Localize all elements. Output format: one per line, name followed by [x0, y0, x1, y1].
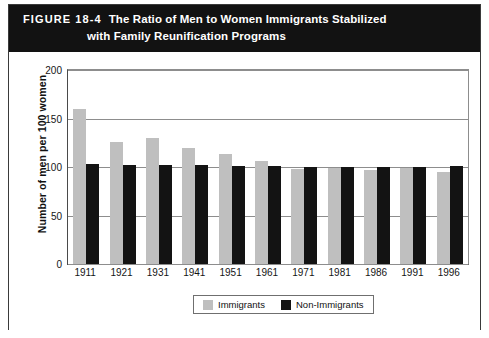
bar-nonimmigrants: [159, 165, 172, 264]
bar-group: [364, 70, 390, 264]
bar-immigrants: [437, 172, 450, 264]
legend-label-nonimmigrants: Non-Immigrants: [296, 299, 364, 310]
bar-group: [400, 70, 426, 264]
bar-nonimmigrants: [304, 167, 317, 264]
bar-group: [73, 70, 99, 264]
legend-swatch-immigrants-icon: [203, 300, 213, 310]
bar-nonimmigrants: [268, 166, 281, 264]
legend-swatch-nonimmigrants-icon: [281, 300, 291, 310]
bar-nonimmigrants: [195, 165, 208, 264]
legend-label-immigrants: Immigrants: [218, 299, 265, 310]
x-axis-tick-label: 1971: [286, 267, 320, 278]
bar-nonimmigrants: [377, 167, 390, 264]
bar-immigrants: [291, 169, 304, 264]
bar-immigrants: [400, 168, 413, 264]
bar-immigrants: [328, 168, 341, 264]
bar-group: [255, 70, 281, 264]
bar-immigrants: [73, 109, 86, 264]
x-axis-tick-label: 1986: [359, 267, 393, 278]
bar-nonimmigrants: [232, 166, 245, 264]
legend-item-immigrants: Immigrants: [203, 299, 265, 310]
bar-groups: [68, 70, 468, 264]
ytick-label-50: 50: [51, 210, 62, 221]
bar-group: [182, 70, 208, 264]
bar-immigrants: [219, 154, 232, 264]
bar-nonimmigrants: [341, 167, 354, 264]
legend-item-nonimmigrants: Non-Immigrants: [281, 299, 364, 310]
bar-immigrants: [110, 142, 123, 264]
bar-group: [437, 70, 463, 264]
chart-area: Number of men per 100 women 200 150 100 …: [9, 52, 480, 330]
bar-group: [110, 70, 136, 264]
bar-group: [219, 70, 245, 264]
bar-nonimmigrants: [413, 167, 426, 264]
ytick-label-150: 150: [45, 113, 62, 124]
x-axis-tick-label: 1931: [141, 267, 175, 278]
figure-title-line-1: FIGURE 18-4The Ratio of Men to Women Imm…: [23, 11, 466, 28]
figure-container: FIGURE 18-4The Ratio of Men to Women Imm…: [8, 4, 481, 330]
bar-immigrants: [364, 170, 377, 264]
bar-immigrants: [182, 148, 195, 264]
gridline-0: 0: [68, 264, 468, 265]
bar-nonimmigrants: [123, 165, 136, 264]
x-axis-tick-label: 1996: [432, 267, 466, 278]
x-axis-tick-label: 1911: [68, 267, 102, 278]
bar-group: [291, 70, 317, 264]
x-axis-tick-label: 1961: [250, 267, 284, 278]
bar-nonimmigrants: [86, 164, 99, 264]
x-axis-tick-labels: 1911192119311941195119611971198119861991…: [67, 267, 467, 278]
chart-legend: Immigrants Non-Immigrants: [193, 295, 374, 314]
ytick-label-0: 0: [56, 259, 62, 270]
ytick-label-200: 200: [45, 65, 62, 76]
ytick-label-100: 100: [45, 162, 62, 173]
bar-group: [146, 70, 172, 264]
x-axis-tick-label: 1951: [214, 267, 248, 278]
bar-nonimmigrants: [450, 166, 463, 264]
x-axis-tick-label: 1921: [105, 267, 139, 278]
y-axis-title: Number of men per 100 women: [36, 59, 48, 249]
x-axis-tick-label: 1991: [395, 267, 429, 278]
figure-title-line-2: with Family Reunification Programs: [23, 28, 466, 45]
plot-area: 200 150 100 50 0: [67, 69, 469, 265]
x-axis-tick-label: 1981: [323, 267, 357, 278]
bar-immigrants: [146, 138, 159, 264]
figure-number-label: FIGURE 18-4: [23, 13, 102, 25]
bar-immigrants: [255, 161, 268, 264]
x-axis-tick-label: 1941: [177, 267, 211, 278]
figure-title-bar: FIGURE 18-4The Ratio of Men to Women Imm…: [9, 5, 480, 52]
bar-group: [328, 70, 354, 264]
figure-title-text-1: The Ratio of Men to Women Immigrants Sta…: [109, 13, 387, 25]
